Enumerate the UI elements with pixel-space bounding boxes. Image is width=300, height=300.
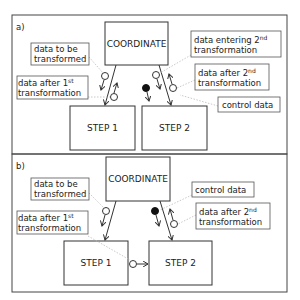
couple-up-step2-b <box>170 209 178 228</box>
svg-text:transformed: transformed <box>34 189 86 199</box>
step2-box-b: STEP 2 <box>149 241 212 285</box>
couple-down-step2-a <box>153 72 161 90</box>
step2-box-a: STEP 2 <box>142 106 207 150</box>
step1-box-a: STEP 1 <box>70 106 135 150</box>
coordinate-box-a: COORDINATE <box>105 22 168 65</box>
control-couple-b <box>152 208 160 227</box>
coordinate-label-a: COORDINATE <box>107 39 167 49</box>
label-data-after-first-a: data after 1st transformation <box>17 76 88 99</box>
label-data-to-be-transformed-b: data to be transformed <box>31 178 89 200</box>
step1-box-b: STEP 1 <box>64 241 128 285</box>
svg-text:control data: control data <box>222 100 273 110</box>
svg-text:data to be: data to be <box>34 44 78 54</box>
couple-down-step1-b <box>102 208 110 227</box>
label-control-data-a: control data <box>218 97 280 112</box>
couple-up-step1-a <box>111 83 118 101</box>
call-arrow-step2-a <box>159 65 171 105</box>
couple-down-step1-a <box>101 73 109 91</box>
label-data-to-be-transformed-a: data to be transformed <box>31 43 89 65</box>
label-data-after-first-b: data after 1st transformation <box>17 211 88 234</box>
panel-a-tag: a) <box>16 22 25 32</box>
svg-text:transformation: transformation <box>198 78 261 88</box>
couple-up-step2-a <box>169 74 177 92</box>
panel-b-tag: b) <box>16 161 25 171</box>
svg-text:data after 1st: data after 1st <box>18 77 74 88</box>
svg-text:control data: control data <box>195 185 246 195</box>
svg-text:transformation: transformation <box>18 88 81 98</box>
panel-b: b) COORDINATE STEP 1 STEP 2 <box>12 154 287 292</box>
svg-text:data after 1st: data after 1st <box>18 212 74 223</box>
control-couple-a <box>143 85 150 102</box>
step2-label-b: STEP 2 <box>165 258 196 268</box>
label-control-data-b: control data <box>192 182 254 197</box>
svg-text:transformation: transformation <box>194 45 257 55</box>
svg-text:transformed: transformed <box>34 54 86 64</box>
svg-text:transformation: transformation <box>18 223 81 233</box>
call-arrow-step1-b <box>105 201 116 240</box>
svg-text:data after 2nd: data after 2nd <box>199 206 257 217</box>
svg-text:data entering 2nd: data entering 2nd <box>194 34 268 45</box>
panel-a: a) COORDINATE STEP 1 STEP 2 <box>12 15 287 154</box>
step1-label-b: STEP 1 <box>81 258 112 268</box>
step2-label-a: STEP 2 <box>159 123 190 133</box>
step1-label-a: STEP 1 <box>87 123 118 133</box>
couple-step1-to-step2-b <box>130 261 149 268</box>
label-data-after-second-b: data after 2nd transformation <box>196 203 270 229</box>
svg-text:transformation: transformation <box>199 217 262 227</box>
coordinate-box-b: COORDINATE <box>106 157 170 201</box>
diagram-canvas: a) COORDINATE STEP 1 STEP 2 <box>0 0 300 300</box>
coordinate-label-b: COORDINATE <box>108 174 168 184</box>
call-arrow-step2-b <box>160 201 172 240</box>
label-data-after-second-a: data after 2nd transformation <box>195 64 269 90</box>
svg-text:data after 2nd: data after 2nd <box>198 67 256 78</box>
label-data-entering-second-a: data entering 2nd transformation <box>191 31 281 57</box>
svg-text:data to be: data to be <box>34 179 78 189</box>
